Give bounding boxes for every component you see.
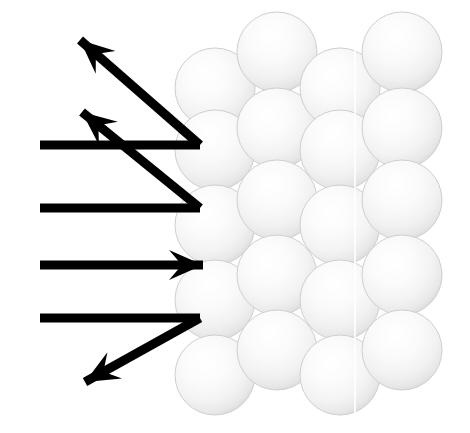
sphere-circle xyxy=(362,88,442,168)
sphere-circle xyxy=(362,235,442,315)
sphere-circle xyxy=(362,160,442,240)
ray-horizontal-right xyxy=(40,204,200,213)
ray-horizontal-right xyxy=(40,314,200,323)
atom-sphere xyxy=(362,235,442,315)
ray-shaft xyxy=(40,261,203,270)
diagram-canvas xyxy=(0,0,470,433)
sphere-circle xyxy=(362,310,442,390)
ray-shaft xyxy=(40,204,200,213)
sphere-lattice xyxy=(175,10,442,425)
ray-shaft xyxy=(40,314,200,323)
atom-sphere xyxy=(362,88,442,168)
sphere-circle xyxy=(362,12,442,92)
atom-sphere xyxy=(362,160,442,240)
atom-sphere xyxy=(362,310,442,390)
atom-sphere xyxy=(362,12,442,92)
scattering-diagram-figure: Specular scattering of a beam from a clo… xyxy=(0,0,470,433)
